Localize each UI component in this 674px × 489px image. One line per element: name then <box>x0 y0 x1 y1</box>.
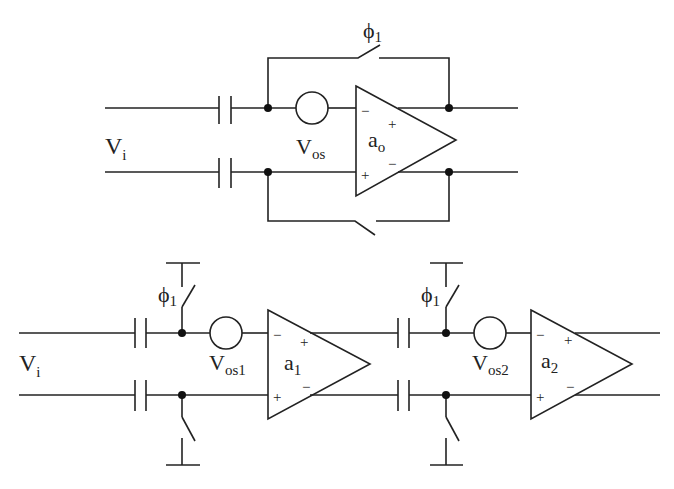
capacitor-s1-lower <box>135 380 146 411</box>
input-label-vi-bottom: Vi <box>19 350 41 380</box>
switch-s1-lower <box>166 395 200 465</box>
capacitor-s1-upper <box>135 318 146 348</box>
switch-label-phi1-s1: ϕ1 <box>158 282 177 309</box>
capacitor-s2-upper <box>398 318 409 348</box>
plus-sign: + <box>536 389 544 405</box>
switch-phi1-top <box>268 45 449 108</box>
plus-sign: + <box>388 116 396 132</box>
minus-sign: − <box>302 379 310 395</box>
switch-s2-lower <box>430 395 463 465</box>
switch-bottom-top-circuit <box>268 172 449 235</box>
input-label-vi: Vi <box>105 133 127 163</box>
switch-label-phi1-s2: ϕ1 <box>421 282 440 309</box>
top-circuit: Vi Vos ao ϕ1 − + + − <box>105 18 518 235</box>
amp-label-a1: a1 <box>284 350 301 378</box>
offset-source-vos <box>296 92 328 124</box>
offset-label-vos2: Vos2 <box>472 350 509 378</box>
bottom-circuit: Vi ϕ1 Vos1 a1 − + + − ϕ1 Vos2 a2 − + + − <box>19 263 660 465</box>
amp-label-a0: ao <box>368 127 385 155</box>
capacitor-top-lower <box>219 158 231 188</box>
capacitor-top-upper <box>219 96 231 124</box>
circuit-diagram: Vi Vos ao ϕ1 − + + − <box>0 0 674 489</box>
minus-sign: − <box>273 327 281 343</box>
plus-sign: + <box>300 334 308 350</box>
offset-source-vos2 <box>474 317 506 349</box>
plus-sign: + <box>564 332 572 348</box>
minus-sign: − <box>361 103 369 119</box>
minus-sign: − <box>536 327 544 343</box>
offset-source-vos1 <box>210 317 242 349</box>
plus-sign: + <box>273 389 281 405</box>
minus-sign: − <box>566 379 574 395</box>
amp-label-a2: a2 <box>541 348 558 376</box>
offset-label-vos1: Vos1 <box>209 350 246 378</box>
plus-sign: + <box>361 167 369 183</box>
capacitor-s2-lower <box>398 380 409 411</box>
offset-label-vos: Vos <box>296 134 325 162</box>
minus-sign: − <box>388 156 396 172</box>
switch-label-phi1: ϕ1 <box>363 18 382 45</box>
